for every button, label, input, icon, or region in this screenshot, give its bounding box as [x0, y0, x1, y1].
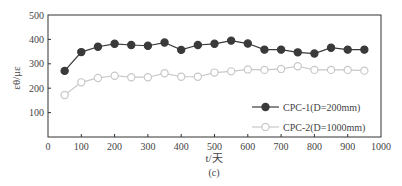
data-point: [311, 66, 318, 73]
legend-label: CPC-1(D=200mm): [283, 102, 360, 114]
legend-label: CPC-2(D=1000mm): [283, 122, 365, 134]
data-point: [61, 67, 68, 74]
data-point: [294, 63, 301, 70]
x-tick-label: 400: [174, 141, 189, 152]
series-2: [61, 63, 368, 99]
data-point: [111, 40, 118, 47]
x-tick-label: 500: [207, 141, 222, 152]
data-point: [161, 70, 168, 77]
data-point: [178, 46, 185, 53]
data-point: [361, 67, 368, 74]
data-point: [228, 37, 235, 44]
legend-item-2: CPC-2(D=1000mm): [252, 122, 365, 134]
data-point: [144, 74, 151, 81]
x-tick-label: 200: [107, 141, 122, 152]
data-point: [211, 40, 218, 47]
data-point: [194, 41, 201, 48]
data-point: [344, 46, 351, 53]
data-point: [244, 40, 251, 47]
y-tick-label: 500: [29, 10, 44, 21]
y-tick-label: 400: [29, 34, 44, 45]
x-tick-label: 900: [340, 141, 355, 152]
data-point: [344, 66, 351, 73]
x-tick-label: 100: [74, 141, 89, 152]
data-point: [194, 73, 201, 80]
data-point: [361, 46, 368, 53]
legend: CPC-1(D=200mm)CPC-2(D=1000mm): [252, 102, 365, 134]
x-tick-label: 0: [46, 141, 51, 152]
legend-marker: [262, 103, 269, 110]
legend-marker: [262, 123, 269, 130]
data-point: [161, 39, 168, 46]
data-point: [178, 73, 185, 80]
y-axis-title: εθ/με: [10, 66, 22, 90]
x-tick-label: 1000: [371, 141, 391, 152]
x-tick-label: 300: [140, 141, 155, 152]
series-layer: [61, 37, 368, 99]
data-point: [327, 44, 334, 51]
y-tick-label: 100: [29, 107, 44, 118]
data-point: [294, 49, 301, 56]
data-point: [244, 66, 251, 73]
x-tick-label: 700: [274, 141, 289, 152]
data-point: [311, 50, 318, 57]
data-point: [261, 46, 268, 53]
data-point: [278, 46, 285, 53]
legend-item-1: CPC-1(D=200mm): [252, 102, 360, 114]
data-point: [78, 79, 85, 86]
data-point: [78, 48, 85, 55]
chart-caption: (c): [208, 167, 219, 179]
data-point: [228, 68, 235, 75]
data-point: [144, 42, 151, 49]
data-point: [128, 74, 135, 81]
data-point: [61, 91, 68, 98]
y-tick-label: 300: [29, 58, 44, 69]
data-point: [128, 41, 135, 48]
data-point: [327, 66, 334, 73]
data-point: [111, 72, 118, 79]
x-tick-label: 600: [240, 141, 255, 152]
data-point: [261, 66, 268, 73]
x-axis-title: t/天: [205, 152, 222, 164]
line-chart: 0100200300400500600700800900100010020030…: [0, 0, 402, 186]
data-point: [278, 65, 285, 72]
y-tick-label: 200: [29, 83, 44, 94]
data-point: [94, 74, 101, 81]
data-point: [94, 43, 101, 50]
data-point: [211, 69, 218, 76]
x-tick-label: 800: [307, 141, 322, 152]
